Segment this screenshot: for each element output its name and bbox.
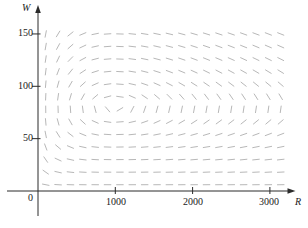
x-tick-label-3000: 3000 (249, 197, 289, 207)
y-tick-label-150: 150 (5, 28, 33, 38)
x-axis-label: R (295, 197, 301, 207)
slope-dashes (42, 30, 284, 185)
axis-ticks (32, 34, 270, 194)
y-tick-label-50: 50 (5, 133, 33, 143)
axes (7, 5, 296, 216)
slope-field-canvas (0, 0, 308, 228)
x-axis-arrow-icon (288, 188, 296, 194)
y-tick-label-100: 100 (5, 81, 33, 91)
origin-label: 0 (5, 193, 33, 203)
y-axis-label: W (22, 3, 30, 13)
x-tick-label-2000: 2000 (173, 197, 213, 207)
direction-field-figure: W R 150 100 50 0 1000 2000 3000 (0, 0, 308, 228)
y-axis-arrow-icon (35, 5, 41, 13)
x-tick-label-1000: 1000 (96, 197, 136, 207)
